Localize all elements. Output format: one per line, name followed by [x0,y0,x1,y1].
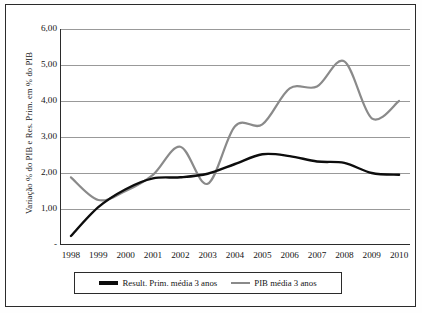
x-axis-tick-label: 2009 [363,250,381,260]
y-axis-tick-label: 1,00 [41,203,57,213]
x-axis-tick-label: 2006 [281,250,299,260]
y-axis-tick-label: 4,00 [41,95,57,105]
legend-label-secondary: PIB média 3 anos [254,278,316,288]
x-axis-tick-label: 1999 [89,250,107,260]
x-axis-tick-labels: 1998199920002001200220032004200520062007… [60,250,410,266]
legend-line-icon-primary [99,281,118,284]
series-line [71,61,399,201]
chart-legend: Result. Prim. média 3 anos PIB média 3 a… [74,272,342,294]
x-axis-tick-label: 2010 [390,250,408,260]
legend-line-icon-secondary [231,282,250,285]
x-axis-tick-label: 2003 [198,250,216,260]
x-axis-tick-label: 1998 [62,250,80,260]
y-axis-tick-label: 2,00 [41,167,57,177]
plot-area [60,29,410,245]
y-axis-tick-label: 5,00 [41,59,57,69]
x-axis-tick-label: 2002 [171,250,189,260]
x-axis-tick-label: 2004 [226,250,244,260]
chart-figure: Variação % do PIB e Res. Prim. em % do P… [0,0,422,313]
x-axis-tick-label: 2000 [116,250,134,260]
x-axis-tick-label: 2008 [335,250,353,260]
x-axis-tick-label: 2005 [253,250,271,260]
legend-label-primary: Result. Prim. média 3 anos [122,278,217,288]
legend-entry-secondary[interactable]: PIB média 3 anos [231,278,316,288]
series-lines [71,61,399,236]
gridlines [60,29,410,245]
legend-entry-primary[interactable]: Result. Prim. média 3 anos [99,278,217,288]
y-axis-tick-labels: 6,005,004,003,002,001,00- [14,29,57,245]
x-axis-tick-label: 2001 [144,250,162,260]
x-axis-tick-label: 2007 [308,250,326,260]
chart-plot-svg [60,29,410,245]
y-axis-tick-label: - [54,239,57,249]
y-axis-tick-label: 3,00 [41,131,57,141]
y-axis-tick-label: 6,00 [41,23,57,33]
